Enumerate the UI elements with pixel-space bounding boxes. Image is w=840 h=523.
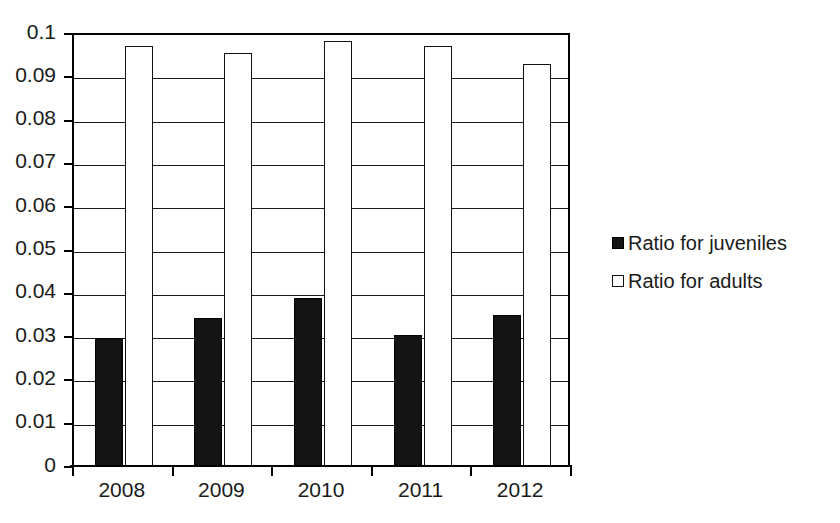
x-axis-tick-mark	[470, 466, 472, 476]
x-axis-tick-label: 2009	[172, 478, 272, 502]
bar-2012-adults	[523, 64, 551, 466]
x-axis-tick-mark	[172, 466, 174, 476]
plot-area	[72, 33, 570, 466]
bar-2009-juveniles	[194, 318, 222, 466]
y-axis-tick-label: 0.09	[0, 64, 56, 85]
y-axis-tick-label: 0.03	[0, 324, 56, 345]
bar-2010-juveniles	[294, 298, 322, 466]
x-axis-tick-mark	[570, 466, 572, 476]
bar-2008-adults	[125, 46, 153, 466]
legend-label: Ratio for adults	[628, 270, 763, 292]
y-axis-tick-label: 0.05	[0, 237, 56, 258]
y-axis-tick-label: 0	[0, 454, 56, 475]
x-axis-tick-mark	[371, 466, 373, 476]
y-axis-tick-label: 0.07	[0, 150, 56, 171]
y-axis-tick-label: 0.06	[0, 194, 56, 215]
y-axis-tick-label: 0.02	[0, 367, 56, 388]
bar-2012-juveniles	[493, 315, 521, 466]
x-axis-tick-label: 2008	[72, 478, 172, 502]
x-axis-line	[70, 465, 572, 467]
y-axis-label-group: 0.10.090.080.070.060.050.040.030.020.010	[0, 0, 56, 523]
y-axis-tick-label: 0.08	[0, 107, 56, 128]
y-axis-tick-label: 0.04	[0, 280, 56, 301]
x-axis-tick-mark	[271, 466, 273, 476]
x-axis-tick-mark	[72, 466, 74, 476]
chart-legend: Ratio for juvenilesRatio for adults	[612, 224, 837, 300]
bar-chart: 0.10.090.080.070.060.050.040.030.020.010…	[0, 0, 840, 523]
y-axis-tick-label: 0.01	[0, 410, 56, 431]
y-axis-tick-label: 0.1	[0, 21, 56, 42]
bar-2011-adults	[424, 46, 452, 466]
bar-2009-adults	[224, 53, 252, 466]
legend-label: Ratio for juveniles	[628, 232, 787, 254]
x-axis-tick-label: 2010	[271, 478, 371, 502]
bar-2010-adults	[324, 41, 352, 466]
x-axis-tick-label: 2012	[470, 478, 570, 502]
legend-entry-juveniles: Ratio for juveniles	[612, 224, 837, 262]
legend-entry-adults: Ratio for adults	[612, 262, 837, 300]
filled-square-icon	[612, 237, 624, 249]
x-axis-label-group: 20082009201020112012	[72, 478, 570, 512]
hollow-square-icon	[612, 275, 624, 287]
x-axis-tick-label: 2011	[371, 478, 471, 502]
bar-2011-juveniles	[394, 335, 422, 466]
bar-2008-juveniles	[95, 338, 123, 466]
